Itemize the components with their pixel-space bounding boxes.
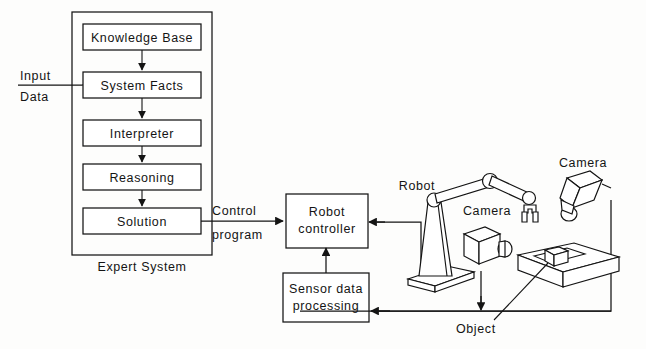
robot-upper-arm: [435, 178, 489, 203]
robot-label: Robot: [399, 179, 435, 193]
box-knowledge-base-label: Knowledge Base: [91, 31, 193, 45]
control-program-label-top: Control: [212, 204, 257, 218]
robot-wrist-joint: [523, 192, 536, 205]
box-sensor-data-processing: [283, 273, 369, 322]
box-reasoning-label: Reasoning: [109, 171, 174, 185]
box-robot-controller-line1: Robot: [309, 205, 345, 219]
diagram-root: Input Data Knowledge Base System Facts I…: [0, 0, 646, 349]
box-solution-label: Solution: [117, 215, 167, 229]
input-label-top: Input: [20, 69, 51, 83]
box-robot-controller-line2: controller: [298, 222, 355, 236]
box-sensor-data-line1: Sensor data: [289, 282, 363, 296]
gripper-finger-right: [533, 212, 538, 222]
box-interpreter-label: Interpreter: [110, 127, 174, 141]
control-program-label-bottom: program: [212, 228, 263, 242]
gripper-finger-left: [522, 212, 527, 222]
expert-system-caption: Expert System: [97, 260, 186, 274]
robot-cable-path: [377, 222, 421, 281]
camera-right-cable-stub: [602, 184, 611, 188]
camera-fixed-label: Camera: [559, 156, 607, 170]
input-label-bottom: Data: [20, 90, 49, 104]
camera-arm-label: Camera: [463, 204, 511, 218]
robot-column: [419, 202, 452, 276]
camera-fixed-lens-barrel: [499, 241, 505, 257]
object-label: Object: [456, 322, 496, 336]
box-robot-controller: [286, 194, 368, 248]
box-system-facts-label: System Facts: [101, 79, 184, 93]
diagram-canvas: Input Data Knowledge Base System Facts I…: [0, 0, 646, 349]
